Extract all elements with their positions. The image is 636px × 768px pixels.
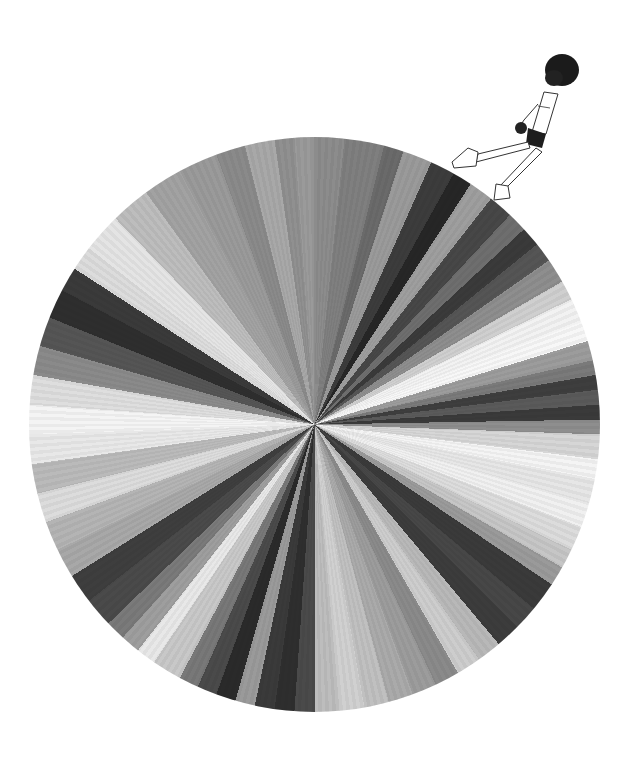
hair-icon [545,54,579,86]
walking-figure-illustration [438,48,588,203]
wheel-texture [29,137,600,712]
